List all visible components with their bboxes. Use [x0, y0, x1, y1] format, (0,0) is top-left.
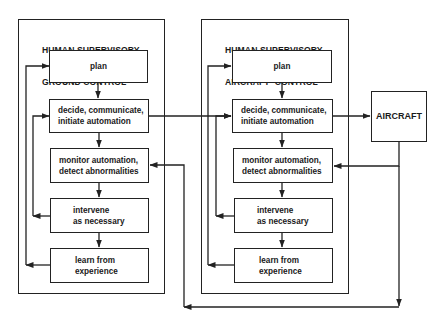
aircraft-plan-box: plan	[232, 50, 332, 83]
ground-monitor-line1: monitor automation,	[59, 155, 138, 166]
aircraft-intervene-line1: intervene	[257, 205, 293, 216]
ground-learn-line1: learn from	[75, 255, 115, 266]
aircraft-learn-line2: experience	[259, 266, 302, 277]
aircraft-monitor-box: monitor automation, detect abnormalities	[233, 148, 333, 183]
ground-monitor-line2: detect abnormalities	[59, 166, 139, 177]
aircraft-box: AIRCRAFT	[371, 91, 427, 142]
aircraft-decide-line2: initiate automation	[241, 116, 314, 127]
ground-intervene-line1: intervene	[73, 205, 109, 216]
aircraft-intervene-box: intervene as necessary	[234, 198, 333, 233]
ground-monitor-box: monitor automation, detect abnormalities	[50, 148, 149, 183]
aircraft-decide-box: decide, communicate, initiate automation	[232, 99, 333, 133]
aircraft-decide-line1: decide, communicate,	[241, 105, 327, 116]
ground-learn-line2: experience	[75, 266, 118, 277]
ground-decide-line2: initiate automation	[58, 116, 131, 127]
aircraft-learn-line1: learn from	[259, 255, 299, 266]
aircraft-intervene-line2: as necessary	[257, 216, 308, 227]
aircraft-plan-label: plan	[274, 61, 291, 72]
ground-decide-box: decide, communicate, initiate automation	[49, 99, 149, 133]
supervisory-control-diagram: HUMAN SUPERVISORY GROUND CONTROL plan de…	[0, 0, 441, 324]
ground-learn-box: learn from experience	[50, 248, 149, 283]
ground-decide-line1: decide, communicate,	[58, 105, 144, 116]
ground-plan-label: plan	[90, 61, 107, 72]
aircraft-monitor-line1: monitor automation,	[242, 155, 321, 166]
aircraft-learn-box: learn from experience	[234, 248, 333, 283]
ground-plan-box: plan	[49, 50, 148, 83]
ground-intervene-box: intervene as necessary	[50, 198, 149, 233]
aircraft-monitor-line2: detect abnormalities	[242, 166, 322, 177]
aircraft-label: AIRCRAFT	[376, 111, 422, 122]
ground-intervene-line2: as necessary	[73, 216, 124, 227]
